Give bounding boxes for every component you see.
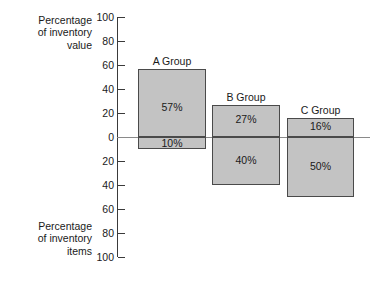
bar-label-a-group-items: 10%	[138, 137, 206, 149]
y-axis-tick	[118, 233, 125, 234]
y-axis-tick	[118, 185, 125, 186]
y-axis-tick	[118, 209, 125, 210]
y-axis-tick-label: 100	[88, 11, 114, 23]
bar-label-a-group-value: 57%	[138, 101, 206, 113]
y-axis-tick-label: 100	[88, 251, 114, 263]
y-axis-tick-label: 60	[88, 59, 114, 71]
y-axis-tick-label: 40	[88, 179, 114, 191]
bar-title-a-group: A Group	[138, 55, 206, 67]
y-axis-tick	[118, 257, 125, 258]
y-axis-caption-value: Percentage of inventory value	[4, 14, 92, 51]
y-axis-tick-label: 80	[88, 35, 114, 47]
y-axis-tick	[118, 113, 125, 114]
bar-label-b-group-items: 40%	[212, 154, 280, 166]
y-axis-tick	[118, 161, 125, 162]
y-axis-tick	[118, 17, 125, 18]
bar-label-b-group-value: 27%	[212, 113, 280, 125]
y-axis-tick-label: 80	[88, 227, 114, 239]
bar-label-c-group-value: 16%	[287, 120, 354, 132]
y-axis-tick	[118, 89, 125, 90]
bar-label-c-group-items: 50%	[287, 160, 354, 172]
abc-inventory-chart: Percentage of inventory value Percentage…	[0, 0, 385, 281]
y-axis-tick	[118, 65, 125, 66]
y-axis-tick-label: 40	[88, 83, 114, 95]
y-axis-tick	[118, 41, 125, 42]
y-axis-tick-label: 20	[88, 155, 114, 167]
y-axis-tick-label: 20	[88, 107, 114, 119]
bar-title-b-group: B Group	[212, 91, 280, 103]
y-axis-caption-items: Percentage of inventory items	[4, 220, 92, 257]
y-axis-tick-label: 60	[88, 203, 114, 215]
y-axis-tick-label-zero: 0	[88, 131, 114, 143]
bar-title-c-group: C Group	[287, 104, 354, 116]
